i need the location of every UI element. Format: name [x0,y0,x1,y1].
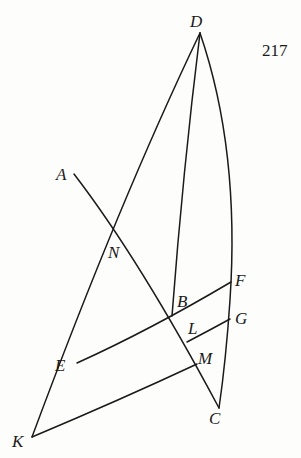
label-G: G [235,310,247,327]
arc-DB [172,33,200,316]
label-L: L [188,320,197,337]
geometric-figure: 217 D A N B F L G E M C K [0,0,301,458]
label-D: D [190,13,202,30]
figure-lines [0,0,301,458]
label-B: B [177,293,187,310]
line-AC [74,174,219,408]
page-number: 217 [262,42,288,59]
label-C: C [209,410,220,427]
arc-DK [32,33,200,437]
label-F: F [235,272,245,289]
label-M: M [198,350,212,367]
label-K: K [12,433,23,450]
label-A: A [56,166,66,183]
label-E: E [55,357,65,374]
label-N: N [108,244,119,261]
